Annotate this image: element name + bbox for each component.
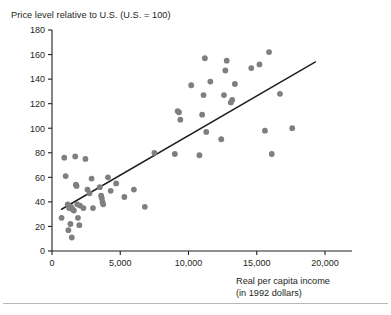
scatter-point bbox=[113, 181, 119, 187]
x-tick-label: 15,000 bbox=[243, 258, 271, 268]
x-axis-label: Real per capita income (in 1992 dollars) bbox=[236, 276, 330, 299]
x-tick-label: 5,000 bbox=[109, 258, 132, 268]
scatter-point bbox=[72, 154, 78, 160]
y-tick-label: 140 bbox=[30, 74, 45, 84]
x-axis-ticks: 05,00010,00015,00020,000 bbox=[49, 251, 338, 268]
scatter-point bbox=[69, 235, 75, 241]
scatter-point bbox=[131, 187, 137, 193]
scatter-point bbox=[257, 61, 263, 67]
scatter-chart-figure: Price level relative to U.S. (U.S. = 100… bbox=[0, 0, 391, 315]
x-axis-label-line2: (in 1992 dollars) bbox=[236, 288, 330, 300]
page-divider bbox=[3, 303, 388, 304]
scatter-point bbox=[218, 136, 224, 142]
scatter-point bbox=[222, 68, 228, 74]
scatter-point bbox=[151, 150, 157, 156]
y-tick-label: 0 bbox=[40, 246, 45, 256]
plot-area: 020406080100120140160180 05,00010,00015,… bbox=[0, 0, 391, 315]
scatter-point bbox=[63, 173, 69, 179]
y-tick-label: 80 bbox=[35, 148, 45, 158]
x-tick-label: 10,000 bbox=[175, 258, 203, 268]
scatter-point bbox=[188, 82, 194, 88]
scatter-point bbox=[105, 174, 111, 180]
scatter-point bbox=[121, 194, 127, 200]
scatter-point bbox=[100, 201, 106, 207]
scatter-point bbox=[87, 190, 93, 196]
scatter-point bbox=[197, 152, 203, 158]
y-tick-label: 40 bbox=[35, 197, 45, 207]
x-axis-label-line1: Real per capita income bbox=[236, 276, 330, 288]
x-tick-label: 20,000 bbox=[311, 258, 339, 268]
scatter-point bbox=[269, 151, 275, 157]
x-tick-label: 0 bbox=[49, 258, 54, 268]
scatter-point bbox=[65, 227, 71, 233]
scatter-point bbox=[83, 156, 89, 162]
scatter-point bbox=[176, 109, 182, 115]
scatter-point bbox=[74, 183, 80, 189]
scatter-point bbox=[262, 128, 268, 134]
scatter-point bbox=[68, 221, 74, 227]
scatter-point bbox=[277, 91, 283, 97]
y-tick-label: 20 bbox=[35, 222, 45, 232]
scatter-point bbox=[202, 55, 208, 61]
y-tick-label: 180 bbox=[30, 25, 45, 35]
y-tick-label: 160 bbox=[30, 50, 45, 60]
scatter-point bbox=[97, 184, 103, 190]
scatter-point bbox=[108, 188, 114, 194]
scatter-point bbox=[172, 151, 178, 157]
scatter-point bbox=[203, 129, 209, 135]
chart-axes bbox=[52, 30, 352, 251]
scatter-point bbox=[221, 92, 227, 98]
data-points bbox=[59, 49, 295, 240]
scatter-point bbox=[90, 205, 96, 211]
scatter-point bbox=[229, 97, 235, 103]
scatter-point bbox=[177, 117, 183, 123]
scatter-point bbox=[248, 65, 254, 71]
scatter-point bbox=[89, 176, 95, 182]
scatter-point bbox=[224, 58, 230, 64]
scatter-point bbox=[207, 79, 213, 85]
scatter-point bbox=[289, 125, 295, 131]
scatter-point bbox=[76, 222, 82, 228]
scatter-point bbox=[80, 205, 86, 211]
scatter-point bbox=[61, 155, 67, 161]
scatter-point bbox=[59, 215, 65, 221]
y-tick-label: 100 bbox=[30, 124, 45, 134]
scatter-point bbox=[199, 112, 205, 118]
y-axis-ticks: 020406080100120140160180 bbox=[30, 25, 52, 256]
scatter-point bbox=[232, 81, 238, 87]
scatter-point bbox=[75, 215, 81, 221]
scatter-point bbox=[266, 49, 272, 55]
y-tick-label: 120 bbox=[30, 99, 45, 109]
scatter-point bbox=[142, 204, 148, 210]
y-tick-label: 60 bbox=[35, 173, 45, 183]
scatter-point bbox=[71, 208, 77, 214]
scatter-point bbox=[201, 92, 207, 98]
